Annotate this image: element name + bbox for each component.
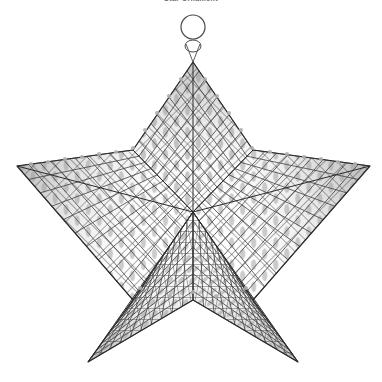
star-ornament-illustration (0, 0, 382, 382)
figure-root: Star Ornament (0, 0, 382, 382)
